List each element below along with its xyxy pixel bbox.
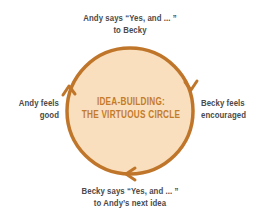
node-left-line-1: Andy feels [14,97,59,109]
title-line-2: THE VIRTUOUS CIRCLE [78,108,185,121]
node-top-line-1: Andy says “Yes, and ... ” [64,12,195,24]
node-left-line-2: good [14,109,59,121]
node-right-line-2: encouraged [201,109,250,121]
title-line-1: IDEA-BUILDING: [78,95,185,108]
node-right: Becky feels encouraged [201,97,250,121]
node-right-line-1: Becky feels [201,97,250,109]
node-bottom-line-1: Becky says “Yes, and ... ” [64,185,195,197]
node-bottom: Becky says “Yes, and ... ” to Andy’s nex… [64,185,195,209]
node-bottom-line-2: to Andy’s next idea [64,197,195,209]
node-top: Andy says “Yes, and ... ” to Becky [64,12,195,36]
node-left: Andy feels good [14,97,59,121]
node-top-line-2: to Becky [64,24,195,36]
diagram-title: IDEA-BUILDING: THE VIRTUOUS CIRCLE [78,95,185,121]
